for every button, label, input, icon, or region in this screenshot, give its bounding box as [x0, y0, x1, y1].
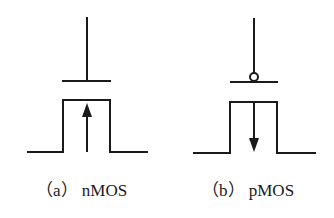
nmos-symbol — [27, 17, 148, 152]
caption-pmos: （b） pMOS — [202, 176, 294, 201]
gate-bubble-icon — [250, 73, 258, 81]
pmos-symbol — [193, 18, 316, 153]
caption-nmos: （a） nMOS — [36, 176, 127, 201]
arrow-down-icon — [249, 138, 259, 152]
arrow-up-icon — [82, 103, 92, 117]
